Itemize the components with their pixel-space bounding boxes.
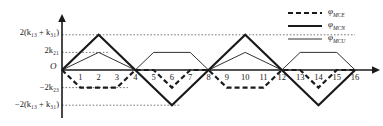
legend-label-mcn: φMCN (328, 19, 345, 31)
x-tick-7: 7 (183, 72, 197, 82)
x-tick-16: 16 (348, 72, 362, 82)
figure-canvas: 2(k₁₃ + k₃₁) 2k₂₁ −2k₂₃ −2(k₁₃ + k₃₁) O … (0, 0, 383, 126)
y-label-neg-high: −2(k₁₃ + k₃₁) (15, 99, 59, 109)
legend-subscript-mcu: MCU (333, 38, 345, 44)
legend-label-mcu: φMCU (328, 32, 345, 44)
x-tick-4: 4 (128, 72, 142, 82)
legend-subscript-mce: MCE (333, 12, 345, 18)
legend-label-mce: φMCE (328, 6, 345, 18)
x-tick-1: 1 (73, 72, 87, 82)
x-tick-15: 15 (330, 72, 344, 82)
x-tick-6: 6 (165, 72, 179, 82)
legend-subscript-mcn: MCN (333, 25, 345, 31)
y-label-pos-low: 2k₂₁ (45, 45, 59, 55)
x-tick-11: 11 (257, 72, 271, 82)
x-tick-14: 14 (311, 72, 325, 82)
x-tick-3: 3 (110, 72, 124, 82)
x-tick-10: 10 (238, 72, 252, 82)
x-axis-arrow (372, 66, 380, 74)
x-tick-5: 5 (147, 72, 161, 82)
x-tick-9: 9 (220, 72, 234, 82)
y-axis-arrow (58, 14, 66, 22)
series-phi-mcu (62, 52, 355, 70)
y-label-pos-high: 2(k₁₃ + k₃₁) (20, 27, 59, 37)
x-tick-12: 12 (275, 72, 289, 82)
y-label-neg-low: −2k₂₃ (40, 82, 59, 92)
x-tick-2: 2 (92, 72, 106, 82)
x-tick-13: 13 (293, 72, 307, 82)
x-tick-8: 8 (202, 72, 216, 82)
origin-label: O (50, 61, 57, 71)
